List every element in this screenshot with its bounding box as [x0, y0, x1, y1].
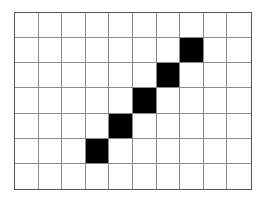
grid-cell [227, 139, 251, 164]
grid-cell [62, 13, 86, 38]
grid-cell [39, 114, 63, 139]
grid-cell [157, 38, 181, 63]
grid-cell [157, 88, 181, 113]
grid-cell [157, 114, 181, 139]
grid-cell [204, 88, 228, 113]
grid-cell [15, 63, 39, 88]
grid-cell [227, 88, 251, 113]
grid-cell [133, 63, 157, 88]
grid-cell [86, 13, 110, 38]
grid-cell [204, 139, 228, 164]
grid-cell [109, 38, 133, 63]
pixel-grid [14, 12, 252, 190]
grid-cell [204, 164, 228, 189]
grid-cell [86, 114, 110, 139]
grid-cell-filled [157, 63, 181, 88]
grid-cell [62, 38, 86, 63]
grid-cell [86, 164, 110, 189]
grid-cell [39, 139, 63, 164]
grid-cell [204, 38, 228, 63]
grid-cell [15, 38, 39, 63]
grid-cell [62, 139, 86, 164]
grid-cell [39, 164, 63, 189]
grid-cell [180, 164, 204, 189]
grid-cell [15, 88, 39, 113]
grid-cell [86, 88, 110, 113]
grid-cell [86, 63, 110, 88]
grid-cell [15, 139, 39, 164]
grid-cell-filled [180, 38, 204, 63]
grid-cell [15, 114, 39, 139]
grid-cell [133, 114, 157, 139]
grid-cell [227, 63, 251, 88]
grid-cell [109, 63, 133, 88]
grid-cell [227, 114, 251, 139]
grid-cell [15, 13, 39, 38]
grid-cell [39, 13, 63, 38]
grid-cell [157, 13, 181, 38]
grid-cell [204, 13, 228, 38]
grid-cell [133, 139, 157, 164]
grid-cell [39, 38, 63, 63]
grid-cell [133, 13, 157, 38]
grid-cell [86, 38, 110, 63]
grid-cell [204, 63, 228, 88]
grid-cell-filled [109, 114, 133, 139]
grid-cell [109, 88, 133, 113]
grid-cell [204, 114, 228, 139]
grid-cell [133, 38, 157, 63]
grid-cell [180, 139, 204, 164]
grid-cell [62, 63, 86, 88]
grid-cell [157, 164, 181, 189]
grid-cell [180, 88, 204, 113]
grid-cell [109, 139, 133, 164]
grid-cell [109, 13, 133, 38]
grid-cell [180, 114, 204, 139]
grid-cell-filled [86, 139, 110, 164]
grid-cell [15, 164, 39, 189]
grid-cell [133, 164, 157, 189]
grid-cell [62, 114, 86, 139]
grid-cell [180, 63, 204, 88]
grid-cell [39, 63, 63, 88]
grid-cell-filled [133, 88, 157, 113]
grid-cell [227, 38, 251, 63]
grid-cell [180, 13, 204, 38]
grid-cell [227, 13, 251, 38]
grid-cell [227, 164, 251, 189]
grid-cell [109, 164, 133, 189]
grid-cell [62, 88, 86, 113]
grid-cell [39, 88, 63, 113]
grid-cell [62, 164, 86, 189]
grid-cell [157, 139, 181, 164]
